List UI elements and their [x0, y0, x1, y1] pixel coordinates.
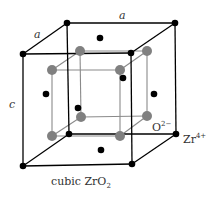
cell-edge	[175, 23, 176, 134]
figure-caption: cubic ZrO2	[51, 175, 111, 190]
zirconium-atom-face-center	[75, 105, 82, 112]
cell-edge	[131, 53, 132, 164]
oxygen-atom	[115, 65, 125, 75]
oxygen-atoms	[47, 46, 152, 141]
oxygen-atom	[47, 131, 57, 141]
zirconium-atom	[172, 20, 179, 27]
cell-edge	[23, 23, 67, 54]
edge-label-c: c	[9, 98, 15, 111]
cell-edge	[81, 116, 147, 117]
cell-edge	[120, 116, 147, 136]
zirconium-atom	[66, 131, 73, 138]
zirconium-atoms	[20, 20, 180, 170]
cell-edge	[131, 23, 175, 53]
edge-label-a-top: a	[119, 9, 126, 22]
zirconium-atom	[64, 20, 71, 27]
zirconium-atom-face-center	[98, 147, 105, 154]
zirconium-atom	[129, 161, 136, 168]
zirconium-atom-face-center	[151, 91, 158, 98]
zirconium-ion-label: Zr4+	[183, 132, 206, 146]
edge-label-a-left: a	[34, 28, 41, 41]
oxygen-atom	[115, 131, 125, 141]
oxygen-ion-label: O2−	[152, 120, 171, 134]
zirconium-atom-face-center	[120, 75, 127, 82]
oxygen-atom	[142, 111, 152, 121]
cell-edge	[132, 134, 176, 164]
zirconium-atom	[20, 163, 27, 170]
unit-cell-diagram: a a c O2− Zr4+ cubic ZrO2	[0, 0, 215, 198]
oxygen-atom	[47, 65, 57, 75]
zirconium-atom	[173, 131, 180, 138]
cell-edge	[23, 164, 132, 166]
cell-edge	[23, 134, 69, 166]
oxygen-atom	[76, 112, 86, 122]
zirconium-atom	[20, 51, 27, 58]
cell-edge	[67, 23, 69, 134]
oxygen-sublattice-edges	[52, 51, 147, 136]
zirconium-atom-face-center	[97, 35, 104, 42]
oxygen-atom	[142, 46, 152, 56]
zirconium-atom-face-center	[43, 91, 50, 98]
zirconium-atom	[128, 50, 135, 57]
oxygen-atom	[75, 46, 85, 56]
zro2-unit-cell-figure: a a c O2− Zr4+ cubic ZrO2	[0, 0, 215, 198]
